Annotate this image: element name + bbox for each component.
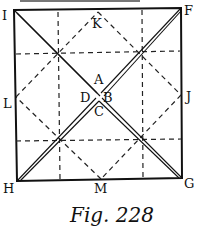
cropped-text-strip [20,0,140,2]
label-C: C [94,104,104,119]
label-G: G [184,176,194,191]
label-M: M [94,181,107,196]
diagonal-folds [14,8,182,181]
label-L: L [3,96,12,111]
label-A: A [93,72,104,87]
label-J: J [184,89,191,104]
label-I: I [2,8,7,23]
figure-caption: Fig. 228 [69,203,154,227]
fold-diagram: I F H G K J L M A B C D Fig. 228 [0,0,199,236]
label-B: B [103,90,113,105]
label-H: H [3,181,14,196]
label-D: D [80,90,90,105]
label-F: F [184,3,193,18]
label-K: K [92,16,102,31]
